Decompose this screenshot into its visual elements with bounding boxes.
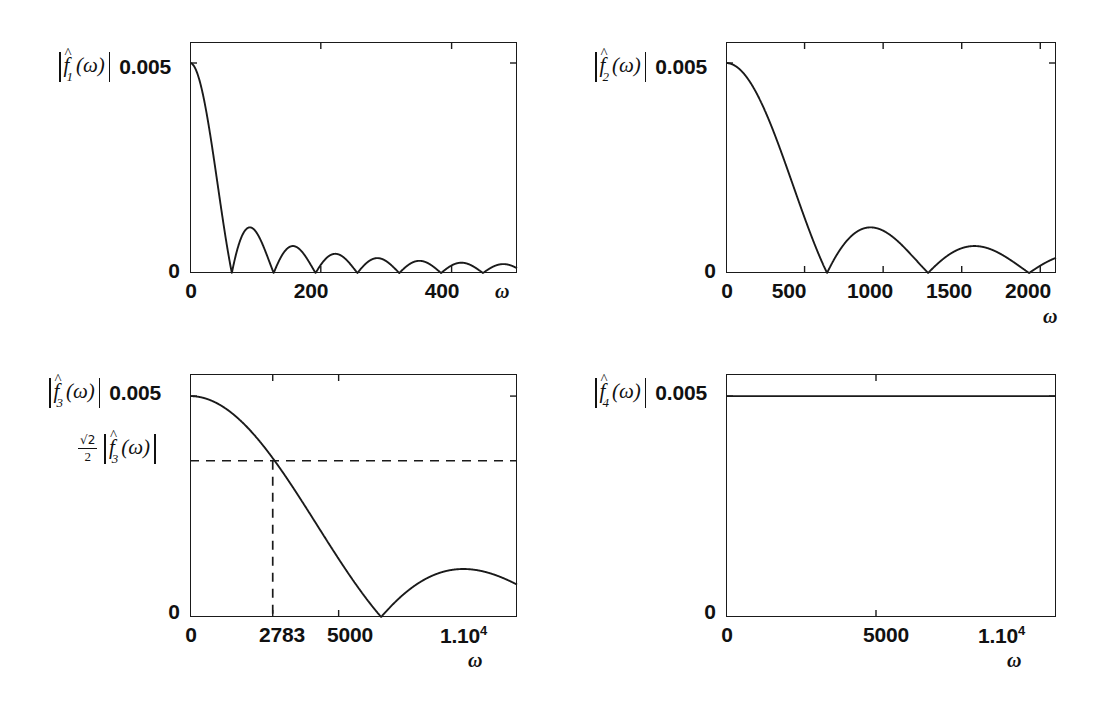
panel-4-xtick-max-mantissa: 1.10 (978, 624, 1018, 647)
panel-4-curve-layer (0, 0, 1120, 703)
panel-4-x-axis-label: ω (1007, 649, 1021, 672)
panel-4-xtick-max-exponent: 4 (1018, 623, 1025, 638)
panel-4-xtick-5000: 5000 (831, 623, 941, 647)
panel-4-xtick-0: 0 (712, 623, 742, 647)
figure-panel-grid: ^f1(ω) 0.005 0 0 200 400 ω ^f2(ω) 0.005 … (0, 0, 1120, 703)
panel-4-xtick-max: 1.104 (978, 623, 1058, 648)
